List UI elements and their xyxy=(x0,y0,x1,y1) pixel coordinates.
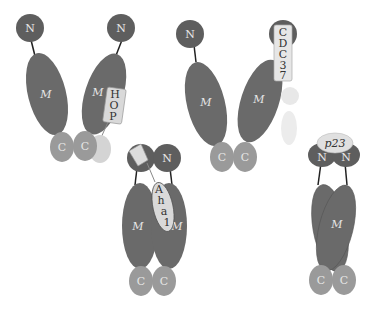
c-domain-label: C xyxy=(218,151,226,164)
p23-cochaperone: p23 xyxy=(317,133,353,153)
linker-left xyxy=(31,40,35,56)
c-domain-left: C xyxy=(129,266,153,296)
m-domain-left: M xyxy=(177,58,235,151)
c-domain-left: C xyxy=(50,132,74,162)
n-domain-label: N xyxy=(317,151,327,164)
hsp90-open-cdc37-state: N M M C D C 3 7 C C xyxy=(176,20,299,172)
c-domain-label: C xyxy=(241,151,249,164)
m-domain-left: M xyxy=(18,49,75,140)
aha1-letter: 1 xyxy=(164,216,171,229)
c-domain-right: C xyxy=(73,131,97,161)
hsp90-closed-aha1-state: N M M A h a 1 C C xyxy=(122,144,187,296)
n-domain-right: N xyxy=(107,14,135,42)
c-domain-label: C xyxy=(81,140,89,153)
m-domain-label: M xyxy=(91,86,104,99)
hsp90-open-hop-state: N N M M H O P C C xyxy=(16,14,135,163)
n-domain-label: N xyxy=(116,22,126,35)
hop-letter: P xyxy=(109,110,117,123)
n-domain-left xyxy=(127,144,155,172)
c-domain-label: C xyxy=(160,275,168,288)
c-domain-right: C xyxy=(152,266,176,296)
c-domain-left: C xyxy=(309,265,333,295)
c-domain-left: C xyxy=(210,142,234,172)
c-domain-label: C xyxy=(340,274,348,287)
cdc37-letter: 7 xyxy=(280,69,287,82)
linker-left xyxy=(194,45,196,62)
c-domain-label: C xyxy=(317,274,325,287)
m-domain-label: M xyxy=(199,96,212,109)
p23-label: p23 xyxy=(324,137,345,150)
c-domain-label: C xyxy=(137,275,145,288)
hsp90-closed-p23-state: N N p23 M C C xyxy=(306,133,364,295)
n-domain-left: N xyxy=(176,20,204,48)
c-domain-right: C xyxy=(233,142,257,172)
m-domain-label: M xyxy=(131,220,144,233)
n-domain-left: N xyxy=(16,14,44,42)
m-domain-label: M xyxy=(39,88,52,101)
c-domain-right: C xyxy=(332,265,356,295)
n-domain-label: N xyxy=(341,151,351,164)
n-domain-label: N xyxy=(162,152,172,165)
n-domain-right: N xyxy=(153,144,181,172)
n-domain-label: N xyxy=(25,22,35,35)
n-domain-label: N xyxy=(185,28,195,41)
m-domain-label: M xyxy=(252,93,265,106)
c-domain-label: C xyxy=(58,141,66,154)
m-domain-label: M xyxy=(330,218,343,231)
hsp90-conformational-cycle-diagram: N N M M H O P C C xyxy=(0,0,373,311)
